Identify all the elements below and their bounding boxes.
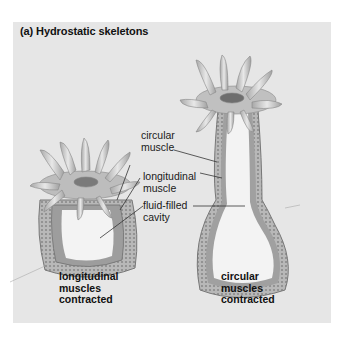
label-longitudinal-muscle: longitudinal muscle bbox=[143, 171, 196, 194]
caption-right: circular muscles contracted bbox=[221, 271, 275, 306]
anemone-illustration bbox=[0, 0, 342, 337]
figure-title: (a) Hydrostatic skeletons bbox=[20, 25, 148, 37]
label-fluid-filled-cavity: fluid-filled cavity bbox=[143, 200, 187, 223]
label-circular-muscle: circular muscle bbox=[141, 130, 175, 153]
right-tentacles bbox=[180, 55, 282, 134]
caption-left: longitudinal muscles contracted bbox=[59, 271, 119, 306]
right-anemone bbox=[180, 55, 300, 298]
left-anemone bbox=[10, 138, 140, 282]
